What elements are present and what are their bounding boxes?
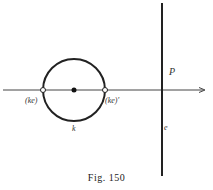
label-ke-prime: (ke)': [105, 96, 119, 105]
label-ke: (ke): [25, 96, 38, 105]
label-k: k: [72, 124, 76, 133]
figure-caption: Fig. 150: [0, 172, 213, 183]
label-e: e: [164, 123, 168, 132]
circle-center-point: [72, 88, 77, 93]
figure-150: (ke) (ke)' k e P Fig. 150: [0, 0, 213, 190]
point-ke: [41, 88, 46, 93]
point-ke-prime: [103, 88, 108, 93]
diagram: (ke) (ke)' k e P: [0, 0, 213, 190]
label-p: P: [168, 66, 175, 77]
